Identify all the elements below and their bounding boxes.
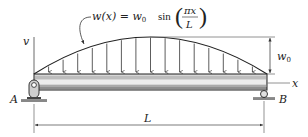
equation-leader	[80, 17, 91, 44]
v-axis: v	[23, 35, 34, 74]
svg-text:sin: sin	[158, 10, 171, 22]
v-axis-label: v	[23, 35, 30, 48]
svg-text:(: (	[175, 3, 183, 29]
svg-text:): )	[199, 3, 207, 29]
support-a-label: A	[9, 93, 18, 106]
svg-text:πx: πx	[183, 5, 197, 16]
load-arrows	[49, 38, 253, 73]
span-label: L	[143, 112, 151, 125]
svg-text:L: L	[185, 19, 193, 30]
x-axis-label: x	[292, 77, 299, 90]
beam	[34, 74, 267, 90]
load-equation: w(x) = w0 sin ( πx L )	[92, 3, 207, 30]
svg-text:w(x) = w0: w(x) = w0	[92, 10, 146, 24]
support-b-label: B	[278, 93, 287, 106]
amplitude-label: w0	[277, 50, 291, 64]
beam-diagram: v w0 x A B L w(x) = w0 sin	[0, 0, 308, 137]
roller-support-b	[253, 91, 275, 101]
